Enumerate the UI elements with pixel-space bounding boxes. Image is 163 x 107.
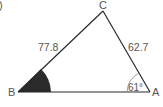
side-ca-label: 62.7 [128,41,149,53]
side-bc [18,11,103,92]
vertex-b-label: B [8,86,15,98]
angle-b-shaded-sector [18,69,51,92]
part-label: ) [0,0,3,11]
angle-a-label: 61° [128,82,143,93]
vertex-a-label: A [152,86,160,98]
vertex-c-label: C [99,0,107,11]
side-bc-label: 77.8 [38,41,59,53]
triangle-diagram: ) B A C 77.8 62.7 61° [0,0,163,107]
